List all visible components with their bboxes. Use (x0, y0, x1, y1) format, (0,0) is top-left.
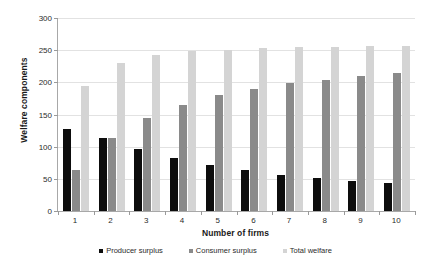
bar-total (259, 48, 267, 211)
y-tick-label: 50 (43, 174, 52, 183)
bar-producer (170, 158, 178, 211)
bar-producer (63, 129, 71, 211)
bar-total (366, 46, 374, 211)
y-axis-title: Welfare components (16, 0, 32, 205)
bar-consumer (393, 73, 401, 211)
legend-swatch-icon (99, 249, 103, 253)
bar-total (81, 86, 89, 211)
y-tick-label: 100 (39, 142, 52, 151)
welfare-components-bar-chart: Welfare components 050100150200250300 12… (0, 0, 431, 268)
legend-swatch-icon (283, 249, 287, 253)
bar-producer (348, 181, 356, 211)
bar-consumer (143, 118, 151, 211)
y-tick-label: 150 (39, 110, 52, 119)
legend-item-consumer[interactable]: Consumer surplus (189, 246, 257, 255)
bar-consumer (322, 80, 330, 211)
bar-consumer (72, 170, 80, 211)
bar-consumer (250, 89, 258, 211)
x-tick-label: 10 (378, 214, 414, 228)
bar-groups (58, 18, 415, 211)
bar-producer (206, 165, 214, 211)
chart-legend: Producer surplusConsumer surplusTotal we… (0, 246, 431, 255)
bar-total (224, 50, 232, 211)
bar-group (237, 18, 273, 211)
bar-group (308, 18, 344, 211)
legend-label: Total welfare (290, 246, 332, 255)
bar-group (58, 18, 94, 211)
x-tick-label: 1 (57, 214, 93, 228)
legend-swatch-icon (189, 249, 193, 253)
bar-group (379, 18, 415, 211)
y-tick-label: 300 (39, 14, 52, 23)
plot-area: 050100150200250300 (57, 18, 415, 212)
bar-group (129, 18, 165, 211)
x-tick-label: 4 (164, 214, 200, 228)
y-tick-label: 250 (39, 46, 52, 55)
bar-group (344, 18, 380, 211)
bar-total (402, 46, 410, 211)
x-axis-title: Number of firms (57, 228, 414, 238)
bar-group (201, 18, 237, 211)
legend-item-producer[interactable]: Producer surplus (99, 246, 163, 255)
x-tick-label: 5 (200, 214, 236, 228)
legend-label: Producer surplus (106, 246, 163, 255)
legend-label: Consumer surplus (196, 246, 257, 255)
bar-total (331, 47, 339, 211)
bar-producer (241, 170, 249, 211)
bar-producer (99, 138, 107, 211)
x-tick-label: 8 (307, 214, 343, 228)
bar-group (165, 18, 201, 211)
bar-producer (313, 178, 321, 211)
bar-consumer (357, 76, 365, 211)
bar-consumer (215, 95, 223, 211)
x-axis-tick-labels: 12345678910 (57, 214, 414, 228)
x-tick-mark (415, 211, 416, 215)
x-tick-label: 2 (93, 214, 129, 228)
bar-group (94, 18, 130, 211)
bar-group (272, 18, 308, 211)
x-tick-label: 7 (271, 214, 307, 228)
x-tick-label: 3 (128, 214, 164, 228)
bar-producer (277, 175, 285, 211)
bar-total (152, 55, 160, 211)
legend-item-total[interactable]: Total welfare (283, 246, 332, 255)
y-tick-label: 0 (48, 207, 52, 216)
bar-consumer (286, 83, 294, 211)
bar-total (117, 63, 125, 211)
x-tick-label: 9 (343, 214, 379, 228)
bar-producer (134, 149, 142, 211)
y-tick-label: 200 (39, 78, 52, 87)
x-tick-label: 6 (236, 214, 272, 228)
bar-total (295, 47, 303, 211)
bar-total (188, 51, 196, 211)
bar-consumer (179, 105, 187, 211)
bar-consumer (108, 138, 116, 211)
bar-producer (384, 183, 392, 211)
